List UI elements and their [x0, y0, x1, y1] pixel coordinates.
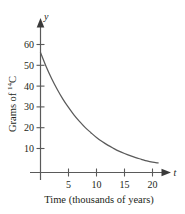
- y-axis-name: y: [43, 11, 49, 22]
- y-tick-label-10: 10: [24, 143, 34, 154]
- y-tick-label-40: 40: [24, 81, 34, 92]
- x-axis-title: Time (thousands of years): [44, 194, 154, 206]
- y-tick-label-30: 30: [24, 101, 34, 112]
- svg-text:Grams of 14C: Grams of 14C: [6, 76, 18, 132]
- y-axis-title: Grams of 14C: [6, 76, 18, 132]
- y-tick-label-20: 20: [24, 122, 34, 133]
- y-axis-title-prefix: Grams of: [7, 90, 18, 132]
- x-tick-label-10: 10: [92, 179, 102, 190]
- y-tick-label-50: 50: [24, 60, 34, 71]
- x-axis-name: t: [174, 167, 177, 178]
- x-axis-arrowhead: [162, 169, 172, 177]
- y-axis-title-element: C: [7, 76, 18, 83]
- carbon-14-decay-figure: y t 60 50 40 30 20 10 5 10 15 20 Grams o…: [0, 0, 185, 214]
- plot-svg: y t 60 50 40 30 20 10 5 10 15 20 Grams o…: [0, 0, 185, 214]
- decay-curve: [41, 53, 159, 163]
- x-tick-label-15: 15: [120, 179, 130, 190]
- y-tick-label-60: 60: [24, 39, 34, 50]
- x-tick-label-20: 20: [148, 179, 158, 190]
- x-tick-label-5: 5: [66, 179, 71, 190]
